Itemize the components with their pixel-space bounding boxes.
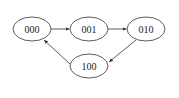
node-010: 010 [127,17,165,41]
state-diagram: 000 001 010 100 [0,0,179,98]
node-label: 001 [82,24,97,35]
node-000: 000 [13,17,51,41]
edge-010-100 [109,40,136,62]
edge-100-000 [44,40,70,64]
node-label: 000 [25,24,40,35]
node-001: 001 [70,17,108,41]
node-label: 100 [82,61,97,72]
node-label: 010 [139,24,154,35]
node-100: 100 [70,54,108,78]
